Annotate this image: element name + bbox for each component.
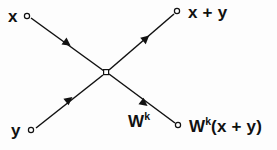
- edge-label-twiddle-factor: Wk: [128, 113, 150, 130]
- node-label-output-twiddle: Wk(x + y): [189, 118, 262, 135]
- node-marker-center-junction: [104, 70, 109, 75]
- node-label-input-x: x: [8, 8, 18, 25]
- edge-label-twiddle-exponent: k: [144, 110, 150, 122]
- output-twiddle-base: W: [189, 117, 205, 136]
- node-marker-input-x: [24, 13, 29, 18]
- node-marker-output-twiddle: [175, 122, 180, 127]
- edge-label-twiddle-base: W: [128, 112, 144, 131]
- output-twiddle-tail: (x + y): [211, 117, 262, 136]
- edge-center-to-sum-output: [109, 14, 174, 70]
- arrowhead-y-to-center: [63, 94, 75, 106]
- node-label-output-sum: x + y: [188, 4, 227, 21]
- butterfly-diagram: x y x + y Wk Wk(x + y): [0, 0, 277, 150]
- node-marker-output-sum: [174, 8, 179, 13]
- node-marker-input-y: [28, 127, 33, 132]
- node-label-input-y: y: [11, 122, 21, 139]
